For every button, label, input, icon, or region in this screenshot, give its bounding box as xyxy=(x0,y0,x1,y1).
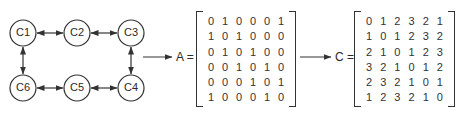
matrix-cell: 1 xyxy=(260,90,274,105)
matrix-cell: 0 xyxy=(260,75,274,90)
matrix-cell: 1 xyxy=(376,45,390,60)
matrix-cell: 0 xyxy=(274,29,288,44)
matrix-cell: 0 xyxy=(204,45,218,60)
matrix-cell: 0 xyxy=(433,90,447,105)
matrix-cell: 0 xyxy=(204,75,218,90)
matrix-cell: 1 xyxy=(218,14,232,29)
matrix-cell: 0 xyxy=(390,45,404,60)
left-bracket xyxy=(354,11,361,107)
matrix-c-label: C = xyxy=(335,51,354,63)
node-label: C3 xyxy=(118,27,144,38)
matrix-cell: 2 xyxy=(362,45,376,60)
matrix-cell: 0 xyxy=(376,29,390,44)
right-bracket xyxy=(289,11,296,107)
matrix-cell: 3 xyxy=(433,45,447,60)
matrix-cell: 1 xyxy=(376,14,390,29)
matrix-cell: 1 xyxy=(433,14,447,29)
matrix-a-grid: 010001101000010100001010000101100010 xyxy=(204,14,288,106)
matrix-cell: 0 xyxy=(419,75,433,90)
node-label: C6 xyxy=(10,82,36,93)
matrix-cell: 3 xyxy=(362,60,376,75)
matrix-cell: 1 xyxy=(246,75,260,90)
matrix-cell: 0 xyxy=(405,60,419,75)
adjacency-matrix-a: 010001101000010100001010000101100010 xyxy=(196,11,296,107)
matrix-cell: 1 xyxy=(246,45,260,60)
matrix-cell: 3 xyxy=(405,14,419,29)
matrix-cell: 0 xyxy=(218,60,232,75)
matrix-cell: 2 xyxy=(376,60,390,75)
matrix-cell: 2 xyxy=(362,75,376,90)
matrix-cell: 0 xyxy=(274,45,288,60)
matrix-cell: 0 xyxy=(232,75,246,90)
matrix-cell: 1 xyxy=(419,60,433,75)
matrix-cell: 3 xyxy=(376,75,390,90)
matrix-cell: 2 xyxy=(390,75,404,90)
left-bracket xyxy=(196,11,203,107)
matrix-cell: 1 xyxy=(405,75,419,90)
matrix-cell: 0 xyxy=(204,14,218,29)
matrix-cell: 1 xyxy=(204,29,218,44)
matrix-cell: 1 xyxy=(274,14,288,29)
matrix-cell: 2 xyxy=(376,90,390,105)
matrix-cell: 0 xyxy=(232,14,246,29)
matrix-cell: 1 xyxy=(405,45,419,60)
matrix-cell: 2 xyxy=(405,90,419,105)
matrix-cell: 1 xyxy=(433,75,447,90)
matrix-cell: 0 xyxy=(232,45,246,60)
matrix-cell: 0 xyxy=(218,90,232,105)
matrix-cell: 2 xyxy=(433,29,447,44)
matrix-cell: 0 xyxy=(362,14,376,29)
matrix-cell: 2 xyxy=(419,14,433,29)
distance-matrix-c: 012321101232210123321012232101123210 xyxy=(354,11,455,107)
matrix-cell: 0 xyxy=(260,45,274,60)
matrix-cell: 0 xyxy=(246,90,260,105)
matrix-cell: 1 xyxy=(232,29,246,44)
matrix-c-grid: 012321101232210123321012232101123210 xyxy=(362,14,447,106)
matrix-cell: 1 xyxy=(390,60,404,75)
matrix-cell: 0 xyxy=(218,75,232,90)
matrix-cell: 1 xyxy=(232,60,246,75)
node-label: C2 xyxy=(64,27,90,38)
matrix-cell: 0 xyxy=(246,14,260,29)
matrix-cell: 0 xyxy=(274,90,288,105)
matrix-cell: 1 xyxy=(218,45,232,60)
matrix-cell: 1 xyxy=(260,60,274,75)
matrix-cell: 1 xyxy=(274,75,288,90)
matrix-cell: 0 xyxy=(232,90,246,105)
matrix-cell: 2 xyxy=(419,45,433,60)
matrix-cell: 1 xyxy=(362,29,376,44)
matrix-cell: 0 xyxy=(246,60,260,75)
node-label: C4 xyxy=(118,82,144,93)
matrix-cell: 2 xyxy=(390,14,404,29)
matrix-a-label: A = xyxy=(176,51,194,63)
matrix-cell: 3 xyxy=(390,90,404,105)
matrix-cell: 1 xyxy=(390,29,404,44)
matrix-cell: 0 xyxy=(274,60,288,75)
node-label: C5 xyxy=(64,82,90,93)
matrix-cell: 1 xyxy=(204,90,218,105)
matrix-cell: 0 xyxy=(204,60,218,75)
matrix-cell: 0 xyxy=(260,14,274,29)
matrix-cell: 2 xyxy=(433,60,447,75)
matrix-cell: 0 xyxy=(246,29,260,44)
node-label: C1 xyxy=(10,27,36,38)
matrix-cell: 1 xyxy=(419,90,433,105)
matrix-cell: 0 xyxy=(218,29,232,44)
matrix-cell: 1 xyxy=(362,90,376,105)
right-bracket xyxy=(448,11,455,107)
matrix-cell: 0 xyxy=(260,29,274,44)
matrix-cell: 2 xyxy=(405,29,419,44)
matrix-cell: 3 xyxy=(419,29,433,44)
